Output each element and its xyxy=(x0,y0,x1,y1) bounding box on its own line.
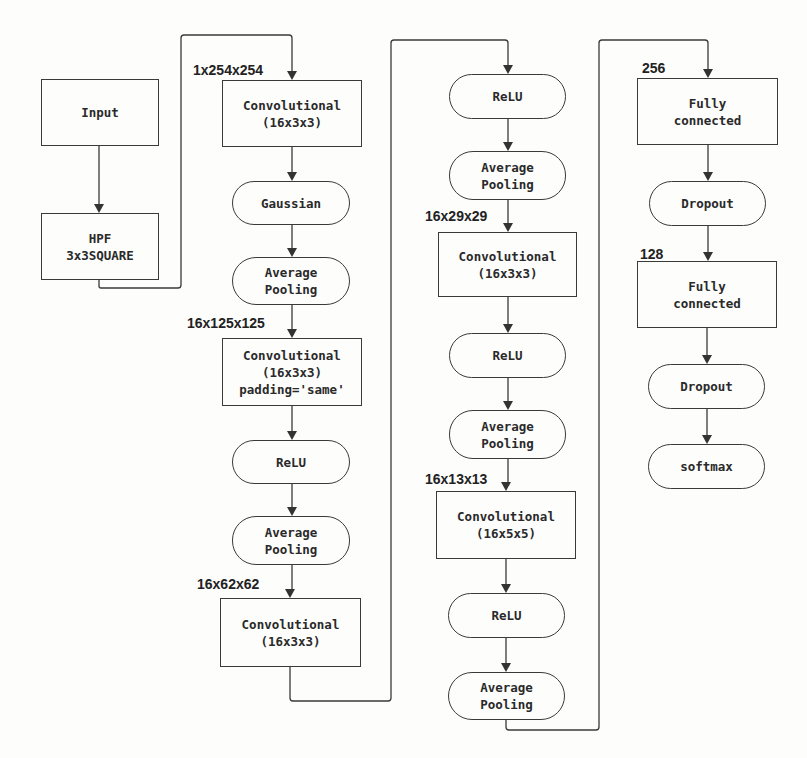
conv-node-4: Convolutional (16x3x3) xyxy=(438,232,577,297)
dim-label-16x62x62: 16x62x62 xyxy=(197,576,259,592)
conv-node-2: Convolutional (16x3x3) padding='same' xyxy=(222,338,362,406)
softmax-node: softmax xyxy=(648,444,765,489)
avgpool-node-1: Average Pooling xyxy=(232,257,350,305)
avgpool-node-5: Average Pooling xyxy=(448,672,565,720)
relu-node-1: ReLU xyxy=(232,440,350,484)
conv-node-5: Convolutional (16x5x5) xyxy=(436,491,576,559)
avgpool-node-3: Average Pooling xyxy=(449,151,566,200)
dim-label-256: 256 xyxy=(642,60,665,76)
relu-node-2: ReLU xyxy=(449,74,566,119)
hpf-node: HPF 3x3SQUARE xyxy=(41,213,159,280)
fc-node-1: Fully connected xyxy=(637,78,778,145)
dropout-node-2: Dropout xyxy=(648,364,765,409)
fc-node-2: Fully connected xyxy=(637,261,777,328)
dim-label-16x29x29: 16x29x29 xyxy=(425,208,487,224)
dim-label-16x125x125: 16x125x125 xyxy=(187,315,265,331)
dim-label-128: 128 xyxy=(640,246,663,262)
input-node: Input xyxy=(41,79,159,146)
dim-label-16x13x13: 16x13x13 xyxy=(425,471,487,487)
avgpool-node-2: Average Pooling xyxy=(232,516,350,565)
dim-label-1x254x254: 1x254x254 xyxy=(193,62,263,78)
relu-node-3: ReLU xyxy=(449,333,566,378)
gaussian-node: Gaussian xyxy=(232,181,350,225)
dropout-node-1: Dropout xyxy=(649,181,766,226)
avgpool-node-4: Average Pooling xyxy=(449,410,566,459)
conv-node-1: Convolutional (16x3x3) xyxy=(222,80,362,147)
conv-node-3: Convolutional (16x3x3) xyxy=(220,598,361,667)
relu-node-4: ReLU xyxy=(448,593,565,638)
